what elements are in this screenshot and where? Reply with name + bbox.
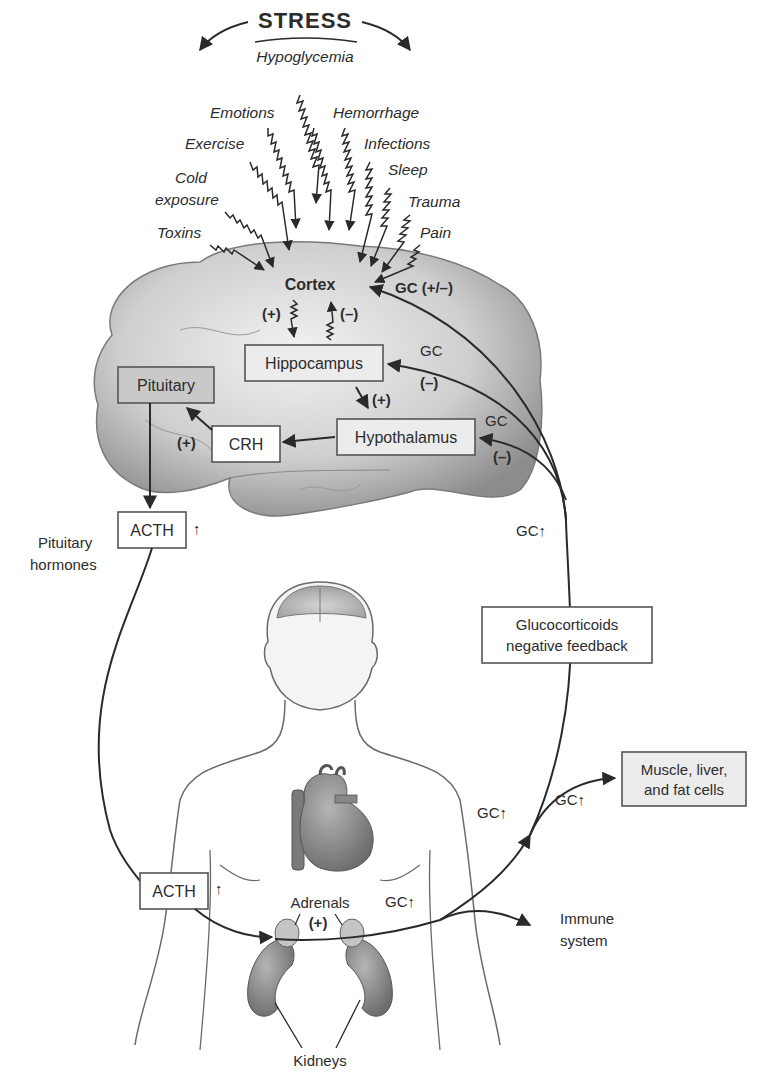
gc-hippocampus-label: GC [420,342,443,359]
acth-bottom-increase: ↑ [215,880,223,897]
pituitary-label: Pituitary [137,377,195,394]
stressor-sleep: Sleep [388,161,428,178]
stress-header: STRESS [200,8,410,50]
gc-to-immune-arrow [440,911,530,925]
gc-hippocampus-sign: (–) [420,374,438,391]
gc-adrenal-label: GC↑ [385,893,415,910]
adrenals-label: Adrenals [290,894,349,911]
crh-to-pituitary-sign: (+) [177,434,196,451]
stress-right-arrow [362,22,410,50]
feedback-box-label-1: Glucocorticoids [516,616,619,633]
cortex-label: Cortex [285,276,336,293]
acth-top-label: ACTH [130,522,174,539]
pituitary-box: Pituitary [118,367,214,403]
glucocorticoids-feedback-box: Glucocorticoids negative feedback [482,607,652,663]
cortex-to-hippocampus-sign: (+) [262,305,281,322]
stressor-hypoglycemia: Hypoglycemia [256,48,354,65]
heart-illustration [292,765,373,871]
hippocampus-to-hypothalamus-sign: (+) [372,391,391,408]
adrenal-stimulation-sign: (+) [309,914,328,931]
gc-trunk-line [530,520,571,835]
stressor-toxins: Toxins [157,224,201,241]
pituitary-hormones-label-1: Pituitary [38,534,93,551]
gc-upward-label: GC↑ [477,804,507,821]
immune-system-label-2: system [560,932,608,949]
acth-top-box: ACTH ↑ [118,512,201,548]
gc-muscle-label: GC↑ [555,791,585,808]
hypothalamus-box: Hypothalamus [337,419,475,455]
feedback-box-label-2: negative feedback [506,637,628,654]
stress-left-arrow [200,22,248,50]
acth-to-adrenals-arrow [195,909,272,937]
kidneys-label: Kidneys [293,1052,346,1069]
gc-hypothalamus-label: GC [485,412,508,429]
gc-upward-arrow [440,835,530,920]
stressor-hemorrhage: Hemorrhage [333,104,420,121]
gc-hypothalamus-sign: (–) [493,448,511,465]
crh-label: CRH [229,436,264,453]
gc-cortex-label: GC (+/–) [395,279,453,296]
gc-increase-label: GC↑ [516,522,546,539]
immune-system-label-1: Immune [560,910,614,927]
hypothalamus-label: Hypothalamus [355,429,457,446]
hippocampus-box: Hippocampus [245,345,383,381]
hippocampus-to-cortex-sign: (–) [340,305,358,322]
target-cells-label-2: and fat cells [644,781,724,798]
adrenal-right [340,919,364,947]
target-cells-label-1: Muscle, liver, [641,761,728,778]
pituitary-hormones-label-2: hormones [30,556,97,573]
hippocampus-label: Hippocampus [265,355,363,372]
acth-top-increase: ↑ [193,520,201,537]
stressor-emotions: Emotions [210,104,275,121]
stressor-cold-2: exposure [155,191,219,208]
stressor-pain: Pain [420,224,451,241]
stress-title: STRESS [258,8,352,33]
hpa-axis-diagram: STRESS Hypoglycemia Emotions Hemorrhage … [0,0,773,1089]
stressor-exercise: Exercise [185,135,245,152]
stressor-trauma: Trauma [408,193,461,210]
acth-bottom-label: ACTH [152,883,196,900]
stressor-labels: Hypoglycemia Emotions Hemorrhage Exercis… [155,48,461,241]
crh-box: CRH [212,426,280,462]
acth-circulation-arrow [99,548,155,900]
muscle-liver-fat-box: Muscle, liver, and fat cells [622,752,746,806]
stressor-cold-1: Cold [175,169,208,186]
stressor-infections: Infections [364,135,431,152]
